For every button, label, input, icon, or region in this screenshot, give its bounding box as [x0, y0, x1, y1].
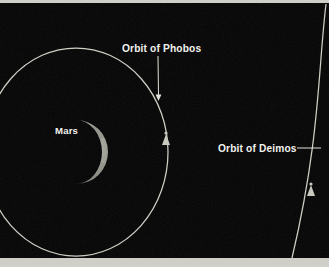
- label-orbit-of-phobos: Orbit of Phobos: [122, 43, 201, 54]
- orbit-diagram-canvas: Orbit of Phobos Orbit of Deimos Mars: [0, 0, 329, 267]
- leader-line-phobos: [158, 56, 159, 97]
- label-orbit-of-deimos: Orbit of Deimos: [218, 143, 297, 154]
- label-mars: Mars: [55, 125, 78, 136]
- mars-moons-orbit-diagram: Orbit of Phobos Orbit of Deimos Mars: [0, 0, 329, 267]
- frame-edge-bottom: [0, 258, 329, 267]
- deimos-marker-dot: [309, 182, 312, 185]
- phobos-marker-dot: [164, 131, 167, 134]
- frame-edge-top: [0, 0, 329, 3]
